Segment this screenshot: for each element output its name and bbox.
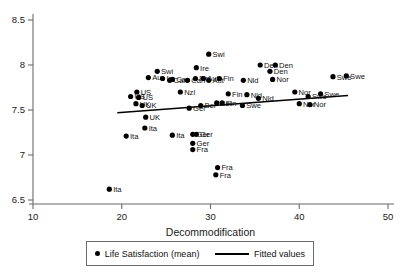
data-point	[318, 91, 323, 96]
data-point-label: Bel	[221, 99, 232, 108]
chart-legend: Life Satisfaction (mean) Fitted values	[86, 241, 314, 266]
x-tick-label: 30	[205, 211, 216, 222]
data-point	[194, 132, 199, 137]
data-point	[190, 147, 195, 152]
data-point-label: Ire	[200, 64, 209, 73]
x-tick-label: 10	[28, 211, 39, 222]
data-point	[187, 106, 192, 111]
data-point	[244, 92, 249, 97]
data-point	[270, 77, 275, 82]
data-point-label: Nor	[314, 100, 327, 109]
data-point-label: Swe	[324, 90, 339, 99]
data-point-label: Ger	[193, 104, 206, 113]
data-point	[330, 74, 335, 79]
y-tick-label: 7	[20, 149, 25, 160]
legend-entry-scatter: Life Satisfaction (mean)	[95, 249, 200, 259]
data-point	[206, 52, 211, 57]
data-point-label: Fra	[220, 171, 232, 180]
data-point-label: Nld	[247, 76, 258, 85]
data-point-label: UK	[150, 113, 161, 122]
data-point-label: Ger	[200, 130, 213, 139]
data-point	[170, 133, 175, 138]
data-point-label: Nzl	[184, 88, 195, 97]
data-point	[170, 77, 175, 82]
data-point	[160, 76, 165, 81]
data-point	[267, 69, 272, 74]
data-point	[201, 76, 206, 81]
legend-label-fitted: Fitted values	[254, 249, 305, 259]
data-point-label: Fin	[223, 74, 234, 83]
data-point	[258, 62, 263, 67]
y-tick-label: 8	[20, 59, 25, 70]
data-point-label: Fin	[232, 90, 243, 99]
data-point	[124, 134, 129, 139]
data-points-group: SwiIreAutDenDenDenSwiAuIreCanCanCanFinAu…	[107, 50, 365, 194]
data-point	[256, 96, 261, 101]
data-point	[297, 101, 302, 106]
data-point	[190, 141, 195, 146]
data-point	[292, 89, 297, 94]
y-tick-label: 6.5	[12, 194, 25, 205]
legend-dot-icon	[95, 251, 100, 256]
data-point	[240, 103, 245, 108]
x-axis-title: Decommodification	[166, 226, 255, 238]
data-point	[213, 172, 218, 177]
axis-title-group: Decommodification	[166, 226, 255, 238]
data-point-label: Ita	[113, 185, 122, 194]
data-point-label: Nld	[262, 94, 273, 103]
x-tick-label: 20	[116, 211, 127, 222]
data-point-label: UK	[146, 101, 157, 110]
data-point-label: Swe	[246, 101, 261, 110]
data-point-label: Bel	[205, 101, 216, 110]
data-point	[128, 94, 133, 99]
data-point-label: Ita	[176, 131, 185, 140]
legend-label-scatter: Life Satisfaction (mean)	[105, 249, 200, 259]
data-point	[133, 101, 138, 106]
data-point	[178, 89, 183, 94]
data-point	[140, 103, 145, 108]
scatter-plot-figure: 6.577.588.51020304050 SwiIreAutDenDenDen…	[0, 0, 400, 276]
data-point	[194, 65, 199, 70]
y-tick-label: 7.5	[12, 104, 25, 115]
data-point-label: Ita	[149, 124, 158, 133]
data-point	[217, 76, 222, 81]
data-point-label: Ita	[130, 132, 139, 141]
data-point	[107, 187, 112, 192]
legend-line-icon	[215, 253, 249, 255]
data-point	[146, 75, 151, 80]
data-point	[307, 102, 312, 107]
data-point	[241, 78, 246, 83]
axes-group: 6.577.588.51020304050	[12, 14, 394, 222]
data-point	[344, 73, 349, 78]
data-point-label: Swi	[213, 50, 226, 59]
data-point	[306, 94, 311, 99]
data-point-label: Fra	[197, 145, 209, 154]
data-point-label: Nor	[276, 75, 289, 84]
data-point	[215, 165, 220, 170]
x-tick-label: 40	[294, 211, 305, 222]
data-point-label: Swe	[350, 72, 365, 81]
data-point	[142, 125, 147, 130]
y-tick-label: 8.5	[12, 14, 25, 25]
data-point	[226, 91, 231, 96]
data-point	[193, 76, 198, 81]
plot-canvas: 6.577.588.51020304050 SwiIreAutDenDenDen…	[0, 0, 400, 276]
data-point	[143, 115, 148, 120]
legend-entry-fitted: Fitted values	[215, 249, 305, 259]
x-tick-label: 50	[383, 211, 394, 222]
data-point	[185, 78, 190, 83]
